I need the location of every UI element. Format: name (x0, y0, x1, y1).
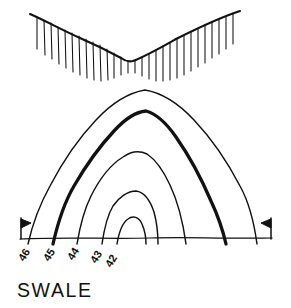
figure-title: SWALE (17, 279, 93, 301)
swale-diagram: 46 45 44 43 42 SWALE (0, 0, 291, 308)
swale-diagram-canvas: 46 45 44 43 42 SWALE (0, 0, 291, 308)
